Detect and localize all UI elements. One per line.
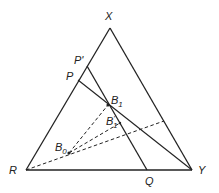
point-b1: [106, 103, 109, 106]
side-xr: [26, 28, 110, 170]
label-b1-sub: 1: [118, 100, 122, 109]
label-b1p-sub: 1: [113, 121, 117, 130]
point-b0: [67, 151, 70, 154]
label-x: X: [104, 10, 113, 22]
line-pprime-q: [87, 66, 147, 170]
point-b1-prime: [119, 122, 121, 124]
label-r: R: [9, 164, 17, 176]
line-p-y: [78, 80, 192, 170]
side-xy: [110, 28, 192, 170]
label-b0-main: B: [55, 141, 62, 153]
label-q: Q: [145, 175, 154, 187]
dash-b0-b1: [69, 105, 108, 153]
label-p-prime: P': [74, 54, 84, 66]
ternary-diagram: X R Y Q P' P B1 B'1 B0: [0, 0, 219, 193]
label-b1-main: B: [111, 94, 118, 106]
label-b0: B0: [55, 141, 67, 156]
label-b0-sub: 0: [62, 147, 67, 156]
dash-b0-extension: [120, 121, 164, 123]
label-p: P: [66, 70, 74, 82]
label-y: Y: [198, 164, 206, 176]
